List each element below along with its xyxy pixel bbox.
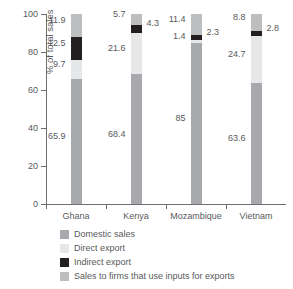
y-axis-tick-label: 20 bbox=[28, 161, 38, 171]
legend-label: Domestic sales bbox=[74, 229, 135, 240]
legend-swatch-inputs-for-exports bbox=[60, 272, 69, 281]
bar-segment bbox=[71, 37, 82, 61]
bar-segment bbox=[251, 83, 262, 204]
y-axis-tick bbox=[41, 52, 46, 53]
legend-item: Domestic sales bbox=[60, 228, 290, 241]
x-axis-tick bbox=[106, 204, 107, 209]
y-axis-tick bbox=[41, 14, 46, 15]
legend-item: Indirect export bbox=[60, 256, 290, 269]
bar-value-label: 11.9 bbox=[49, 15, 66, 25]
y-axis-tick bbox=[41, 90, 46, 91]
legend-swatch-domestic-sales bbox=[60, 230, 69, 239]
bar-segment bbox=[191, 43, 202, 205]
bar-kenya: 68.421.64.35.7 bbox=[131, 14, 142, 204]
chart-legend: Domestic sales Direct export Indirect ex… bbox=[60, 228, 290, 284]
bar-value-label: 63.6 bbox=[228, 133, 246, 143]
bar-value-label: 2.8 bbox=[267, 23, 280, 33]
bar-value-label: 24.7 bbox=[228, 49, 246, 59]
legend-label: Direct export bbox=[74, 243, 125, 254]
legend-label: Indirect export bbox=[74, 257, 131, 268]
bar-value-label: 5.7 bbox=[113, 9, 126, 19]
bar-segment bbox=[251, 14, 262, 31]
x-axis-tick bbox=[226, 204, 227, 209]
bar-value-label: 9.7 bbox=[53, 59, 66, 69]
bar-value-label: 4.3 bbox=[147, 18, 160, 28]
bar-value-label: 8.8 bbox=[233, 12, 246, 22]
y-axis-tick-label: 40 bbox=[28, 123, 38, 133]
bar-segment bbox=[131, 74, 142, 204]
y-axis-tick bbox=[41, 128, 46, 129]
x-axis-tick bbox=[166, 204, 167, 209]
y-axis-tick-label: 80 bbox=[28, 47, 38, 57]
stacked-bar-chart: % of total sales 02040608010065.99.712.5… bbox=[0, 0, 293, 289]
legend-label: Sales to firms that use inputs for expor… bbox=[74, 271, 235, 282]
bar-segment bbox=[131, 25, 142, 33]
legend-swatch-indirect-export bbox=[60, 258, 69, 267]
legend-item: Sales to firms that use inputs for expor… bbox=[60, 270, 290, 283]
y-axis-tick-label: 60 bbox=[28, 85, 38, 95]
x-axis-tick-label: Ghana bbox=[62, 211, 89, 221]
bar-mozambique: 851.42.311.4 bbox=[191, 14, 202, 204]
y-axis-tick-label: 100 bbox=[23, 9, 38, 19]
bar-value-label: 2.3 bbox=[207, 27, 220, 37]
bar-value-label: 11.4 bbox=[169, 14, 186, 24]
x-axis-tick-label: Kenya bbox=[123, 211, 149, 221]
bar-segment bbox=[131, 14, 142, 25]
legend-item: Direct export bbox=[60, 242, 290, 255]
x-axis-tick-label: Vietnam bbox=[240, 211, 273, 221]
bar-segment bbox=[71, 60, 82, 78]
bar-value-label: 85 bbox=[175, 113, 185, 123]
bar-vietnam: 63.624.72.88.8 bbox=[251, 14, 262, 204]
bar-segment bbox=[251, 36, 262, 83]
bar-segment bbox=[191, 35, 202, 39]
x-axis-tick bbox=[46, 204, 47, 209]
legend-swatch-direct-export bbox=[60, 244, 69, 253]
bar-segment bbox=[71, 79, 82, 204]
bar-segment bbox=[251, 31, 262, 36]
bar-value-label: 68.4 bbox=[108, 129, 126, 139]
bar-segment bbox=[131, 33, 142, 74]
y-axis-tick-label: 0 bbox=[33, 199, 38, 209]
plot-area: % of total sales 02040608010065.99.712.5… bbox=[46, 14, 286, 204]
x-axis-tick-label: Mozambique bbox=[170, 211, 222, 221]
bar-value-label: 12.5 bbox=[48, 38, 66, 48]
bar-value-label: 1.4 bbox=[173, 31, 186, 41]
bar-ghana: 65.99.712.511.9 bbox=[71, 14, 82, 204]
bar-value-label: 65.9 bbox=[48, 131, 66, 141]
bar-value-label: 21.6 bbox=[108, 43, 126, 53]
bar-segment bbox=[71, 14, 82, 37]
y-axis-tick bbox=[41, 166, 46, 167]
bar-segment bbox=[191, 40, 202, 43]
bar-segment bbox=[191, 14, 202, 36]
